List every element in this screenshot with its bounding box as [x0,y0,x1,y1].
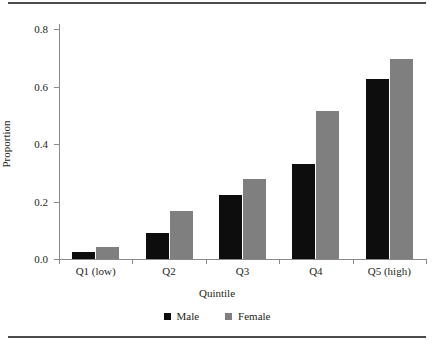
figure-top-rule [8,2,426,4]
bar-male-5 [366,79,389,259]
figure-container: Proportion Quintile 0.00.20.40.60.8 Male… [0,0,434,347]
plot-area: 0.00.20.40.60.8 [59,29,426,259]
y-axis-tick: 0.8 [54,29,59,30]
y-axis-tick-label: 0.8 [34,24,48,35]
x-axis-tick-label: Q2 [162,266,175,277]
figure-bottom-rule [8,336,426,338]
x-axis-tick-label: Q4 [309,266,322,277]
x-axis-line [59,259,427,260]
legend-label: Female [238,311,270,322]
legend-swatch-female [225,313,232,320]
bar-female-1 [96,247,119,259]
legend-swatch-male [164,313,171,320]
x-axis-tick [426,259,427,264]
bar-female-2 [170,211,193,259]
y-axis-tick: 0.4 [54,144,59,145]
y-axis-tick-label: 0.2 [34,196,48,207]
y-axis-tick-label: 0.0 [34,254,48,265]
x-axis-tick-label: Q1 (low) [76,266,116,277]
bar-female-4 [316,111,339,259]
bar-female-5 [390,59,413,259]
x-axis-tick [132,259,133,264]
legend-label: Male [177,311,200,322]
bar-female-3 [243,179,266,259]
legend-item-male: Male [164,311,200,322]
x-axis-tick [279,259,280,264]
bar-male-2 [146,233,169,259]
y-axis-tick: 0.2 [54,202,59,203]
x-axis-tick-label: Q5 (high) [368,266,411,277]
bar-male-1 [72,252,95,259]
bar-male-3 [219,195,242,259]
chart-legend: MaleFemale [0,311,434,322]
bar-male-4 [292,164,315,259]
y-axis-tick-label: 0.6 [34,81,48,92]
y-axis-title: Proportion [1,120,12,167]
x-axis-tick [59,259,60,264]
x-axis-tick [206,259,207,264]
x-axis-tick-label: Q3 [236,266,249,277]
y-axis-tick: 0.6 [54,87,59,88]
x-axis-tick [353,259,354,264]
y-axis-tick-label: 0.4 [34,139,48,150]
x-axis-title: Quintile [0,288,434,299]
legend-item-female: Female [225,311,270,322]
